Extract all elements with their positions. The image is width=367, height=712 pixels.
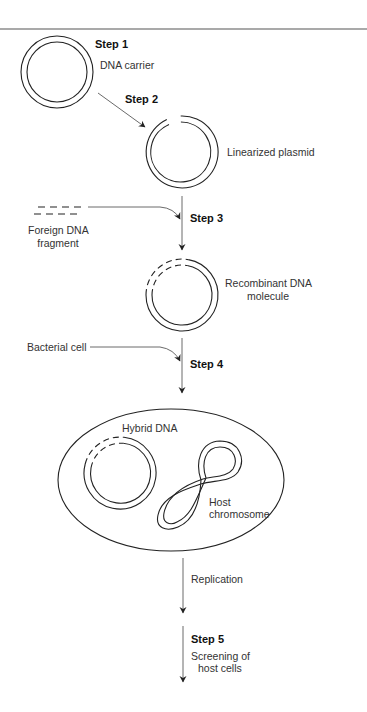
dna-carrier-plasmid bbox=[21, 36, 93, 108]
foreign-dna-label-line1: Foreign DNA bbox=[28, 224, 88, 236]
step5-label: Step 5 bbox=[191, 633, 224, 645]
step3-label: Step 3 bbox=[190, 212, 223, 224]
dna-carrier-label: DNA carrier bbox=[100, 59, 154, 71]
screening-label-line1: Screening of bbox=[191, 650, 250, 662]
host-chromosome-label-line1: Host bbox=[209, 496, 231, 508]
step2-label: Step 2 bbox=[125, 93, 158, 105]
bacterial-cell-connector bbox=[90, 347, 180, 361]
bacterial-cell-label: Bacterial cell bbox=[27, 341, 87, 353]
hybrid-dna-label: Hybrid DNA bbox=[122, 422, 177, 434]
step1-label: Step 1 bbox=[95, 38, 128, 50]
recombinant-label-line2: molecule bbox=[225, 290, 311, 302]
foreign-dna-label-line2: fragment bbox=[28, 237, 88, 249]
recombinant-label-line1: Recombinant DNA bbox=[225, 277, 311, 289]
linearized-plasmid-label: Linearized plasmid bbox=[227, 146, 315, 158]
replication-label: Replication bbox=[191, 573, 243, 585]
foreign-dna-connector bbox=[88, 207, 180, 219]
recombinant-dna-molecule bbox=[146, 259, 218, 331]
linearized-plasmid bbox=[146, 116, 218, 188]
screening-label-line2: host cells bbox=[198, 662, 242, 674]
cloning-diagram bbox=[0, 0, 367, 712]
host-chromosome-label-line2: chromosome bbox=[209, 508, 270, 520]
hybrid-dna bbox=[84, 437, 156, 509]
foreign-dna-fragment bbox=[34, 207, 84, 214]
step4-label: Step 4 bbox=[190, 358, 223, 370]
